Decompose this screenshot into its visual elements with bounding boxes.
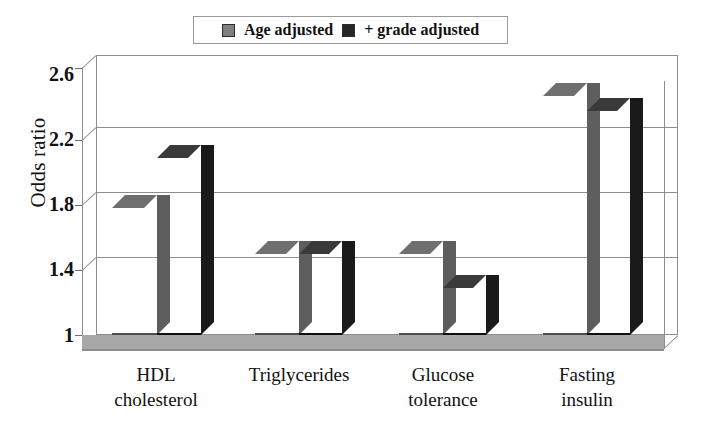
plot-floor-front-edge (82, 349, 664, 351)
tickmark-2-6 (75, 68, 82, 69)
tickmark-2-2 (75, 140, 82, 141)
depth-line-1-8 (82, 192, 97, 206)
tickmark-1 (75, 335, 82, 336)
bar-grade-adjusted-hdl-cholesterol (157, 158, 201, 335)
x-category-fasting-insulin: Fasting insulin (497, 362, 677, 412)
x-category-fasting-insulin-line1: Fasting (497, 362, 677, 387)
bar-age-adjusted-hdl-cholesterol (112, 208, 157, 335)
x-category-hdl-cholesterol-line2: cholesterol (66, 387, 246, 412)
bar-grade-adjusted-triglycerides (299, 254, 342, 335)
bar-grade-adjusted-fasting-insulin (587, 111, 630, 335)
bar-grade-adjusted-glucose-tolerance (443, 288, 486, 335)
depth-line-2-6 (82, 55, 97, 69)
chart-figure: Age adjusted + grade adjusted Odds ratio… (0, 0, 702, 440)
plot-right-edge (664, 81, 665, 349)
depth-line-1-4 (82, 257, 97, 271)
bar-age-adjusted-glucose-tolerance (399, 254, 443, 335)
tickmark-1-8 (75, 205, 82, 206)
depth-line-2-2 (82, 127, 97, 141)
x-category-fasting-insulin-line2: insulin (497, 387, 677, 412)
bar-age-adjusted-triglycerides (255, 254, 299, 335)
tickmark-1-4 (75, 270, 82, 271)
depth-line-right (664, 335, 679, 349)
bar-age-adjusted-fasting-insulin (543, 96, 587, 335)
plot-floor (82, 335, 664, 349)
y-axis-line (82, 68, 83, 348)
